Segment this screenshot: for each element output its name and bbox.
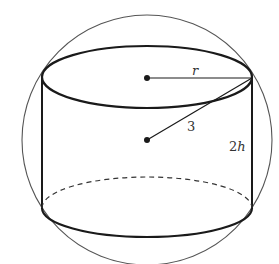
radius-label: r: [192, 63, 199, 78]
cylinder-bottom-back-dashed: [42, 177, 252, 208]
diagram-canvas: r 3 2h: [0, 0, 279, 264]
cylinder-bottom-front: [42, 208, 252, 237]
height-label-variable: h: [237, 139, 245, 154]
height-label-number: 2: [229, 139, 237, 154]
height-label: 2h: [229, 139, 246, 154]
sphere-radius-line: [147, 78, 252, 140]
sphere-center-dot: [144, 137, 150, 143]
top-center-dot: [144, 75, 150, 81]
sphere-radius-label: 3: [187, 119, 195, 134]
